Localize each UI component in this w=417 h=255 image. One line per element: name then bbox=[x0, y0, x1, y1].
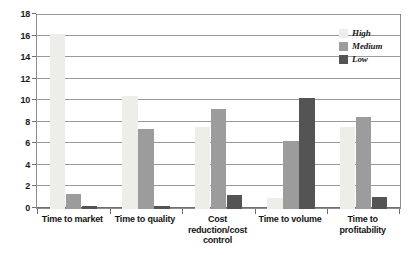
bar-high bbox=[267, 198, 283, 209]
bar-chart: 024681012141618 Time to marketTime to qu… bbox=[0, 0, 417, 255]
bar-low bbox=[227, 195, 243, 209]
legend-item-low[interactable]: Low bbox=[339, 53, 401, 65]
legend-swatch-icon bbox=[339, 55, 348, 64]
y-tick-label: 12 bbox=[20, 74, 30, 84]
y-tick-label: 14 bbox=[20, 52, 30, 62]
legend-label: Medium bbox=[352, 41, 382, 51]
legend-swatch-icon bbox=[339, 29, 348, 38]
bar-group bbox=[255, 15, 328, 209]
bar-low bbox=[299, 98, 315, 209]
y-tick-label: 6 bbox=[25, 138, 30, 148]
bar-medium bbox=[211, 109, 227, 209]
bar-high bbox=[50, 34, 66, 209]
legend-swatch-icon bbox=[339, 42, 348, 51]
x-axis-label: Time to volume bbox=[254, 214, 327, 225]
bar-high bbox=[195, 127, 211, 209]
y-tick-label: 2 bbox=[25, 181, 30, 191]
x-axis-label: Time to market bbox=[36, 214, 109, 225]
x-axis-label: Cost reduction/cost control bbox=[181, 214, 254, 246]
bar-medium bbox=[66, 194, 82, 209]
legend-item-high[interactable]: High bbox=[339, 27, 401, 39]
x-axis-label: Time to profitability bbox=[326, 214, 399, 235]
x-axis-label: Time to quality bbox=[109, 214, 182, 225]
legend-item-medium[interactable]: Medium bbox=[339, 40, 401, 52]
bar-group bbox=[182, 15, 255, 209]
bar-low bbox=[372, 197, 388, 209]
bar-medium bbox=[356, 117, 372, 209]
y-axis-labels: 024681012141618 bbox=[0, 14, 30, 209]
bar-group bbox=[37, 15, 110, 209]
y-tick-label: 10 bbox=[20, 95, 30, 105]
bar-group bbox=[110, 15, 183, 209]
bar-high bbox=[122, 96, 138, 209]
legend-label: Low bbox=[352, 54, 368, 64]
y-tick-label: 4 bbox=[25, 160, 30, 170]
y-tick-label: 18 bbox=[20, 9, 30, 19]
bar-medium bbox=[138, 129, 154, 209]
y-tick-label: 16 bbox=[20, 31, 30, 41]
x-axis-labels: Time to marketTime to qualityCost reduct… bbox=[36, 214, 401, 254]
bar-medium bbox=[283, 141, 299, 209]
bar-high bbox=[340, 127, 356, 209]
y-tick-label: 8 bbox=[25, 117, 30, 127]
legend-label: High bbox=[352, 28, 371, 38]
chart-legend: HighMediumLow bbox=[339, 27, 401, 66]
y-tick-label: 0 bbox=[25, 203, 30, 213]
